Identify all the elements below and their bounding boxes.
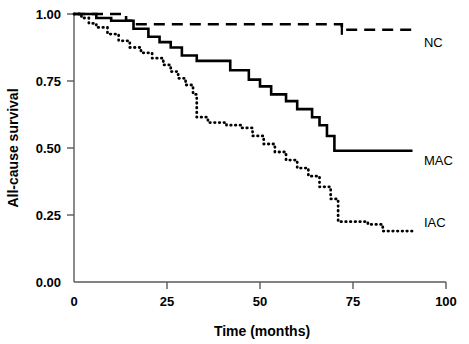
y-tick-label: 0.25 — [36, 208, 61, 223]
plot-background — [0, 0, 469, 344]
y-tick-label: 0.50 — [36, 141, 61, 156]
y-tick-label: 0.75 — [36, 74, 61, 89]
y-axis-title: All-cause survival — [5, 88, 21, 207]
series-label-nc: NC — [424, 35, 443, 50]
series-label-mac: MAC — [424, 153, 453, 168]
x-axis-title: Time (months) — [214, 323, 310, 339]
series-label-iac: IAC — [424, 215, 446, 230]
x-tick-label: 100 — [435, 294, 457, 309]
x-tick-label: 0 — [70, 294, 77, 309]
x-tick-label: 25 — [160, 294, 174, 309]
y-tick-label: 1.00 — [36, 7, 61, 22]
chart-svg: 0.000.250.500.751.000255075100 NCMACIAC … — [0, 0, 469, 344]
survival-chart-figure: 0.000.250.500.751.000255075100 NCMACIAC … — [0, 0, 469, 344]
x-tick-label: 75 — [346, 294, 360, 309]
x-tick-label: 50 — [253, 294, 267, 309]
y-tick-label: 0.00 — [36, 275, 61, 290]
